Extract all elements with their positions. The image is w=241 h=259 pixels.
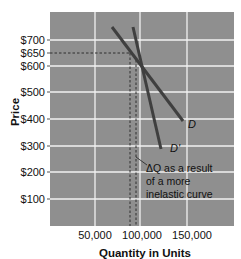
y-tick-500: $500 — [21, 86, 45, 98]
annotation-line-2: of a more — [146, 175, 191, 187]
y-axis-title: Price — [9, 98, 21, 126]
y-tick-300: $300 — [21, 140, 45, 152]
y-tick-100: $100 — [21, 193, 45, 205]
x-tick-100000: 100,000 — [122, 229, 162, 241]
x-tick-150000: 150,000 — [172, 229, 212, 241]
y-tick-700: $700 — [21, 34, 45, 46]
y-tick-labels: $700 $650 $600 $500 $400 $300 $200 $100 — [21, 34, 45, 205]
y-tick-600: $600 — [21, 60, 45, 72]
curve-label-d-prime: D' — [170, 142, 181, 154]
y-tick-650: $650 — [21, 47, 45, 59]
y-tick-marks — [47, 40, 50, 199]
curve-label-d: D — [188, 118, 196, 130]
x-tick-50000: 50,000 — [78, 229, 112, 241]
x-axis-title: Quantity in Units — [99, 247, 191, 259]
price-quantity-chart: D D' ΔQ as a result of a more inelastic … — [0, 0, 241, 259]
x-tick-labels: 50,000 100,000 150,000 — [78, 229, 212, 241]
annotation-line-3: inelastic curve — [146, 188, 213, 200]
annotation-line-1: ΔQ as a result — [146, 162, 213, 174]
y-tick-400: $400 — [21, 113, 45, 125]
y-tick-200: $200 — [21, 166, 45, 178]
